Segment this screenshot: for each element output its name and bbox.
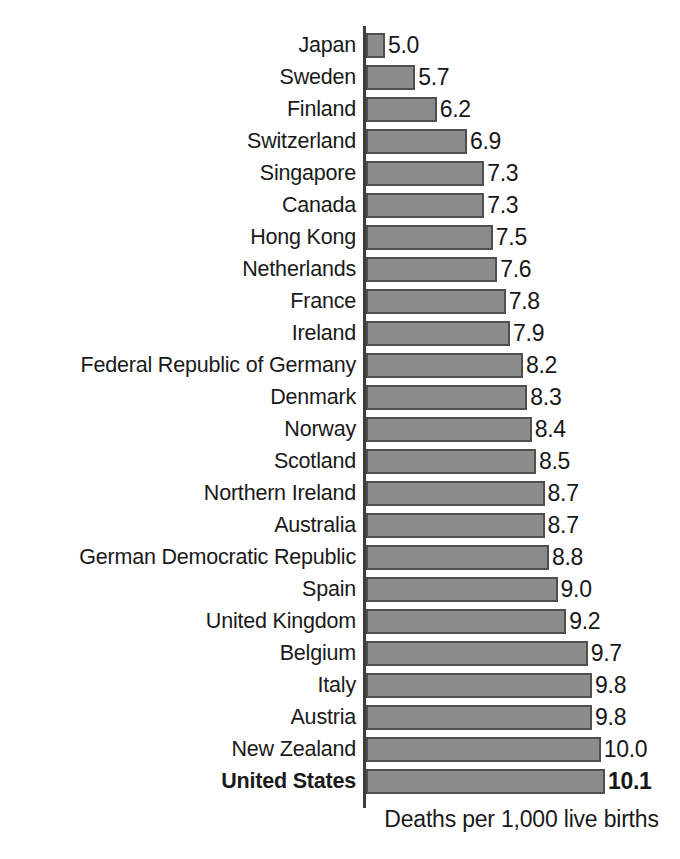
- bar-value-label: 8.7: [548, 510, 579, 542]
- x-axis-label: Deaths per 1,000 live births: [363, 806, 680, 833]
- bar: [366, 545, 549, 570]
- bar-value-label: 6.2: [440, 94, 471, 126]
- bar-row: Finland6.2: [0, 94, 680, 126]
- bar: [366, 705, 592, 730]
- bar-value-label: 9.0: [561, 574, 592, 606]
- category-label: Norway: [284, 414, 356, 446]
- bar-value-label: 9.7: [591, 638, 622, 670]
- bar: [366, 609, 566, 634]
- category-label: Austria: [290, 702, 356, 734]
- bar-row: Switzerland6.9: [0, 126, 680, 158]
- bar: [366, 65, 415, 90]
- bar: [366, 737, 601, 762]
- bar: [366, 193, 484, 218]
- bar: [366, 673, 592, 698]
- bar-value-label: 5.0: [388, 30, 419, 62]
- bar-value-label: 8.3: [530, 382, 561, 414]
- bar: [366, 385, 527, 410]
- bar-value-label: 8.5: [539, 446, 570, 478]
- bar-row: United States10.1: [0, 766, 680, 798]
- category-label: Australia: [274, 510, 356, 542]
- bar: [366, 33, 385, 58]
- bar: [366, 97, 437, 122]
- bar-row: Netherlands7.6: [0, 254, 680, 286]
- bar: [366, 353, 523, 378]
- category-label: United States: [221, 766, 356, 798]
- bar-row: Spain9.0: [0, 574, 680, 606]
- bar-value-label: 9.8: [595, 702, 626, 734]
- bar: [366, 289, 506, 314]
- category-label: Japan: [298, 30, 356, 62]
- bar: [366, 641, 588, 666]
- bar-row: Japan5.0: [0, 30, 680, 62]
- category-label: Hong Kong: [250, 222, 356, 254]
- category-label: Scotland: [274, 446, 356, 478]
- category-label: Northern Ireland: [204, 478, 356, 510]
- bar-row: Hong Kong7.5: [0, 222, 680, 254]
- category-label: Finland: [287, 94, 356, 126]
- category-label: France: [290, 286, 356, 318]
- bar-row: Canada7.3: [0, 190, 680, 222]
- bar: [366, 225, 493, 250]
- chart-plot-area: Japan5.0Sweden5.7Finland6.2Switzerland6.…: [0, 26, 680, 806]
- bar: [366, 481, 545, 506]
- category-label: Ireland: [292, 318, 356, 350]
- bar-row: Italy9.8: [0, 670, 680, 702]
- bar-row: German Democratic Republic8.8: [0, 542, 680, 574]
- bar-row: Denmark8.3: [0, 382, 680, 414]
- bar: [366, 577, 558, 602]
- bar: [366, 449, 536, 474]
- bar-value-label: 7.6: [500, 254, 531, 286]
- bar-value-label: 8.4: [535, 414, 566, 446]
- bar-value-label: 7.3: [487, 158, 518, 190]
- bar-value-label: 6.9: [470, 126, 501, 158]
- bar-row: Belgium9.7: [0, 638, 680, 670]
- bar-value-label: 7.8: [509, 286, 540, 318]
- category-label: United Kingdom: [206, 606, 356, 638]
- bar-value-label: 5.7: [418, 62, 449, 94]
- bar: [366, 321, 510, 346]
- bar: [366, 769, 605, 794]
- bar: [366, 513, 545, 538]
- bar-row: Northern Ireland8.7: [0, 478, 680, 510]
- category-label: New Zealand: [232, 734, 356, 766]
- category-label: Belgium: [280, 638, 356, 670]
- infant-mortality-bar-chart: Japan5.0Sweden5.7Finland6.2Switzerland6.…: [0, 0, 680, 859]
- bar-value-label: 10.0: [604, 734, 648, 766]
- bar-value-label: 8.8: [552, 542, 583, 574]
- bar-value-label: 9.8: [595, 670, 626, 702]
- bar-row: Ireland7.9: [0, 318, 680, 350]
- bar-value-label: 7.5: [496, 222, 527, 254]
- category-label: Spain: [302, 574, 356, 606]
- bar: [366, 129, 467, 154]
- bar-value-label: 8.2: [526, 350, 557, 382]
- bar-row: Scotland8.5: [0, 446, 680, 478]
- bar: [366, 161, 484, 186]
- bar-row: Norway8.4: [0, 414, 680, 446]
- bar-value-label: 9.2: [569, 606, 600, 638]
- category-label: Netherlands: [242, 254, 356, 286]
- bar-value-label: 7.3: [487, 190, 518, 222]
- category-label: Canada: [282, 190, 356, 222]
- category-label: Denmark: [270, 382, 356, 414]
- bar-row: New Zealand10.0: [0, 734, 680, 766]
- bar-row: United Kingdom9.2: [0, 606, 680, 638]
- category-label: German Democratic Republic: [79, 542, 356, 574]
- bar-row: Sweden5.7: [0, 62, 680, 94]
- category-label: Sweden: [280, 62, 357, 94]
- bar-value-label: 8.7: [548, 478, 579, 510]
- bar: [366, 417, 532, 442]
- bar-value-label: 10.1: [608, 766, 652, 798]
- bar: [366, 257, 497, 282]
- bar-row: Australia8.7: [0, 510, 680, 542]
- bar-row: Federal Republic of Germany8.2: [0, 350, 680, 382]
- bar-row: Austria9.8: [0, 702, 680, 734]
- category-label: Singapore: [260, 158, 356, 190]
- category-label: Italy: [318, 670, 356, 702]
- bar-value-label: 7.9: [513, 318, 544, 350]
- category-label: Switzerland: [247, 126, 356, 158]
- bar-row: France7.8: [0, 286, 680, 318]
- bar-row: Singapore7.3: [0, 158, 680, 190]
- category-label: Federal Republic of Germany: [81, 350, 356, 382]
